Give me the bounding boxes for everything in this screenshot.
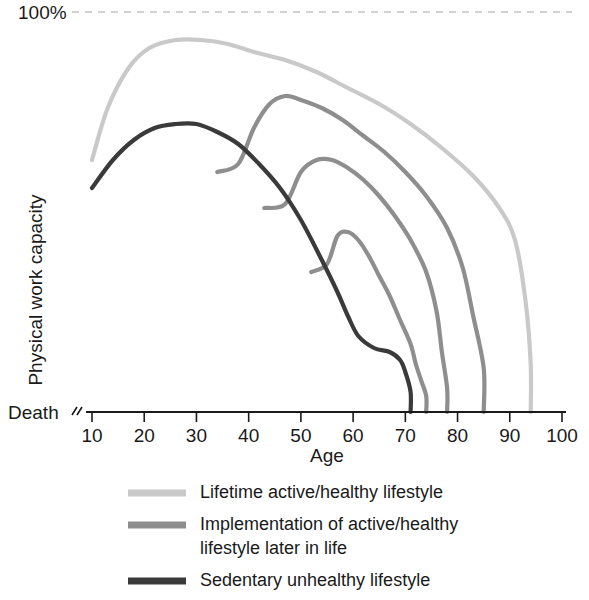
x-tick-label-50: 50	[290, 425, 311, 446]
axis-break-icon	[72, 407, 82, 415]
x-axis-ticks: 102030405060708090100	[81, 412, 577, 446]
x-axis-title: Age	[310, 445, 344, 466]
y-axis-top-label: 100%	[18, 2, 67, 23]
x-tick-label-60: 60	[343, 425, 364, 446]
x-tick-label-20: 20	[134, 425, 155, 446]
chart-legend: Lifetime active/healthy lifestyleImpleme…	[128, 482, 458, 590]
legend-label-1: lifestyle later in life	[200, 538, 347, 558]
x-tick-label-80: 80	[447, 425, 468, 446]
x-tick-label-100: 100	[546, 425, 578, 446]
chart-series-group	[92, 39, 531, 412]
chart-figure: 100% Physical work capacity Death 102030…	[0, 0, 589, 600]
legend-label-1: Implementation of active/healthy	[200, 514, 458, 534]
legend-label-0: Lifetime active/healthy lifestyle	[200, 482, 443, 502]
x-tick-label-90: 90	[499, 425, 520, 446]
y-axis-bottom-label: Death	[8, 402, 59, 423]
legend-label-2: Sedentary unhealthy lifestyle	[200, 570, 430, 590]
y-axis-title: Physical work capacity	[25, 194, 46, 386]
x-tick-label-40: 40	[238, 425, 259, 446]
series-line-0	[92, 39, 531, 412]
x-tick-label-10: 10	[81, 425, 102, 446]
x-tick-label-30: 30	[186, 425, 207, 446]
x-tick-label-70: 70	[395, 425, 416, 446]
chart-svg: 100% Physical work capacity Death 102030…	[0, 0, 589, 600]
series-line-4	[92, 123, 411, 412]
